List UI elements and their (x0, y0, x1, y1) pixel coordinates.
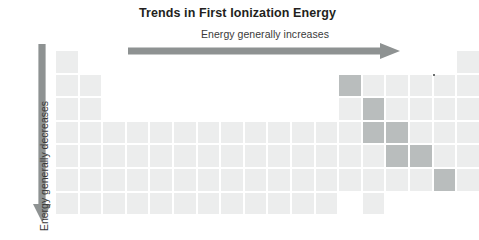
element-cell (174, 122, 196, 144)
element-cell (268, 193, 290, 215)
element-cell (56, 145, 78, 167)
element-cell (174, 169, 196, 191)
element-cell (339, 122, 361, 144)
element-cell (363, 145, 385, 167)
element-cell (80, 145, 102, 167)
element-cell (245, 169, 267, 191)
page-title: Trends in First Ionization Energy (0, 6, 475, 20)
element-cell (316, 122, 338, 144)
element-cell (245, 193, 267, 215)
element-cell (292, 169, 314, 191)
element-cell (56, 122, 78, 144)
element-cell (363, 98, 385, 120)
element-cell (386, 169, 408, 191)
element-cell (268, 169, 290, 191)
element-cell (410, 169, 432, 191)
element-cell (316, 169, 338, 191)
element-cell (457, 98, 479, 120)
element-cell (150, 145, 172, 167)
element-cell (316, 145, 338, 167)
element-cell (316, 193, 338, 215)
element-cell (245, 122, 267, 144)
element-cell (127, 145, 149, 167)
element-cell (292, 145, 314, 167)
element-cell (363, 122, 385, 144)
element-cell (386, 75, 408, 97)
element-cell (292, 122, 314, 144)
element-cell (127, 169, 149, 191)
element-cell (363, 75, 385, 97)
element-cell (150, 193, 172, 215)
element-cell (80, 169, 102, 191)
element-cell (198, 193, 220, 215)
element-cell (363, 169, 385, 191)
element-cell (268, 122, 290, 144)
element-cell (56, 193, 78, 215)
element-cell (363, 193, 385, 215)
element-cell (80, 122, 102, 144)
element-cell (127, 122, 149, 144)
element-cell (434, 98, 456, 120)
element-cell (103, 169, 125, 191)
element-cell (221, 193, 243, 215)
element-cell (457, 75, 479, 97)
element-cell (103, 193, 125, 215)
element-cell (150, 122, 172, 144)
vertical-trend-label-wrap: Energy generally decreases (14, 40, 34, 230)
element-cell (150, 169, 172, 191)
element-cell (410, 98, 432, 120)
element-cell (221, 122, 243, 144)
element-cell (80, 75, 102, 97)
element-cell (339, 75, 361, 97)
element-cell (386, 145, 408, 167)
element-cell (339, 169, 361, 191)
element-cell (221, 169, 243, 191)
element-cell (174, 145, 196, 167)
element-cell (434, 122, 456, 144)
element-cell (410, 75, 432, 97)
element-cell (127, 193, 149, 215)
marker-dot-icon (433, 74, 435, 76)
element-cell (80, 193, 102, 215)
element-cell (198, 122, 220, 144)
element-cell (56, 75, 78, 97)
element-cell (56, 169, 78, 191)
element-cell (410, 122, 432, 144)
element-cell (103, 122, 125, 144)
element-cell (457, 122, 479, 144)
element-cell (56, 51, 78, 73)
element-cell (339, 145, 361, 167)
element-cell (80, 98, 102, 120)
element-cell (245, 145, 267, 167)
element-cell (386, 122, 408, 144)
vertical-trend-label: Energy generally decreases (38, 71, 50, 240)
element-cell (457, 145, 479, 167)
horizontal-trend-label: Energy generally increases (120, 28, 410, 40)
element-cell (198, 145, 220, 167)
element-cell (56, 98, 78, 120)
element-cell (221, 145, 243, 167)
element-cell (457, 169, 479, 191)
element-cell (174, 193, 196, 215)
element-cell (434, 169, 456, 191)
element-cell (434, 145, 456, 167)
element-cell (457, 51, 479, 73)
element-cell (386, 98, 408, 120)
element-cell (198, 169, 220, 191)
right-arrow-icon (128, 43, 400, 59)
element-cell (339, 98, 361, 120)
element-cell (410, 145, 432, 167)
element-cell (103, 145, 125, 167)
element-cell (292, 193, 314, 215)
element-cell (268, 145, 290, 167)
element-cell (434, 75, 456, 97)
